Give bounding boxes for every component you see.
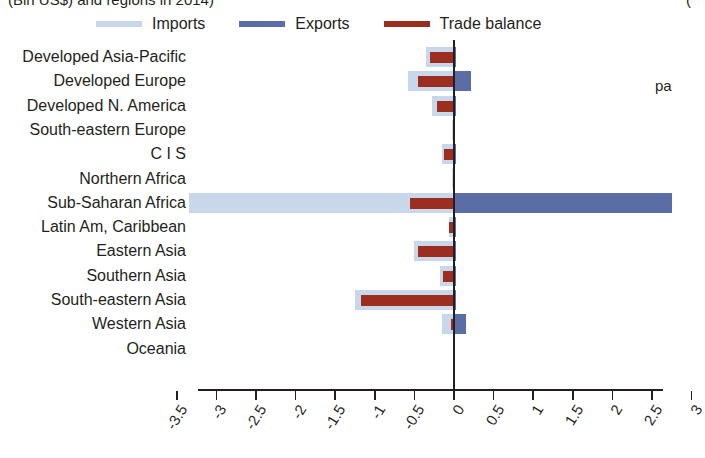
x-axis-tick — [532, 391, 534, 400]
x-axis-tick-label: -1 — [347, 402, 387, 454]
x-axis-tick — [255, 391, 257, 400]
chart-row — [190, 216, 695, 238]
chart-row — [190, 70, 695, 92]
bar-exports — [454, 71, 471, 91]
x-axis-tick-label: 1.5 — [545, 402, 585, 454]
zero-axis-line — [453, 40, 455, 392]
x-axis-tick-label: -2 — [268, 402, 308, 454]
x-axis-tick-label: 0 — [426, 402, 466, 454]
legend-item-trade-balance: Trade balance — [384, 15, 542, 33]
chart-row — [190, 168, 695, 190]
y-axis-label: Latin Am, Caribbean — [41, 219, 186, 235]
y-axis-label: Western Asia — [92, 316, 186, 332]
bar-balance — [418, 76, 454, 87]
x-axis-tick-label: -1.5 — [308, 402, 348, 454]
chart-row — [190, 143, 695, 165]
x-axis-tick-label: 2.5 — [624, 402, 664, 454]
legend-label-imports: Imports — [152, 15, 205, 33]
chart-row — [190, 192, 695, 214]
y-axis-label: Eastern Asia — [96, 243, 186, 259]
bar-exports — [454, 314, 466, 334]
bars-container — [190, 40, 695, 390]
x-axis-tick — [651, 391, 653, 400]
x-axis-tick — [493, 391, 495, 400]
y-axis-label: Northern Africa — [79, 171, 186, 187]
line-swatch-icon — [384, 21, 430, 27]
chart-row — [190, 338, 695, 360]
y-axis-label: Developed Europe — [53, 73, 186, 89]
x-axis-tick-label: -0.5 — [387, 402, 427, 454]
x-axis-tick-label: 0.5 — [466, 402, 506, 454]
legend-label-trade-balance: Trade balance — [440, 15, 542, 33]
chart-row — [190, 313, 695, 335]
x-axis-tick-label: 1 — [506, 402, 546, 454]
bar-balance — [410, 198, 454, 209]
legend-item-exports: Exports — [239, 15, 349, 33]
y-axis-label: South-eastern Asia — [51, 292, 186, 308]
x-axis-tick — [612, 391, 614, 400]
chart-row — [190, 265, 695, 287]
chart-row — [190, 240, 695, 262]
x-axis-tick-label: -3.5 — [149, 402, 189, 454]
x-axis-tick-label: -3 — [189, 402, 229, 454]
chart-row — [190, 95, 695, 117]
legend-label-exports: Exports — [295, 15, 349, 33]
y-axis-labels: Developed Asia-PacificDeveloped EuropeDe… — [0, 40, 190, 390]
x-axis-tick — [414, 391, 416, 400]
x-axis-tick-label: 2 — [585, 402, 625, 454]
y-axis-label: Oceania — [126, 341, 186, 357]
x-axis-tick — [216, 391, 218, 400]
chart-row — [190, 119, 695, 141]
bar-exports — [454, 193, 672, 213]
x-axis-tick — [453, 391, 455, 400]
y-axis-label: Southern Asia — [86, 268, 186, 284]
chart-title-right-fragment: ( — [686, 0, 691, 9]
chart-title-clipped: (Bln US$) and regions in 2014) ( — [0, 0, 695, 9]
line-swatch-icon — [96, 21, 142, 27]
x-axis-tick — [295, 391, 297, 400]
x-axis-tick-label: 3 — [664, 402, 704, 454]
chart-row — [190, 289, 695, 311]
bar-balance — [430, 52, 454, 63]
y-axis-label: Sub-Saharan Africa — [47, 195, 186, 211]
line-swatch-icon — [239, 21, 285, 27]
x-axis-tick — [176, 391, 178, 400]
legend-item-imports: Imports — [96, 15, 205, 33]
x-axis-tick — [334, 391, 336, 400]
chart-title: (Bln US$) and regions in 2014) — [8, 0, 214, 9]
margin-note: pa — [655, 78, 672, 94]
x-axis-tick — [374, 391, 376, 400]
chart-legend: Imports Exports Trade balance — [96, 13, 541, 35]
y-axis-label: South-eastern Europe — [29, 122, 186, 138]
bar-balance — [361, 295, 454, 306]
y-axis-label: Developed Asia-Pacific — [22, 49, 186, 65]
bar-balance — [437, 101, 454, 112]
bar-balance — [418, 246, 454, 257]
x-axis-tick-label: -2.5 — [228, 402, 268, 454]
chart-row — [190, 46, 695, 68]
x-axis-tick — [691, 391, 693, 400]
x-axis-line — [198, 389, 663, 391]
y-axis-label: C I S — [150, 146, 186, 162]
y-axis-label: Developed N. America — [27, 98, 186, 114]
plot-area: Developed Asia-PacificDeveloped EuropeDe… — [0, 40, 695, 390]
x-axis-tick — [572, 391, 574, 400]
